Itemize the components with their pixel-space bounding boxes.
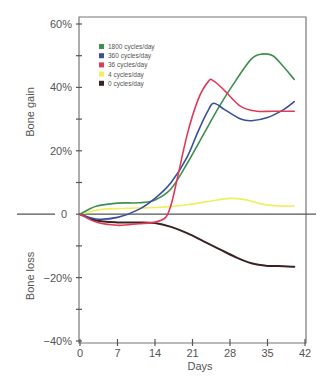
y-tick-label: 0	[61, 208, 67, 220]
legend-label: 4 cycles/day	[108, 71, 145, 79]
y-tick-label: −40%	[44, 335, 73, 347]
y-axis: 60%40%20%0−20%−40%	[44, 18, 82, 347]
x-tick-label: 14	[149, 347, 161, 359]
y-tick-label: −20%	[44, 272, 73, 284]
legend: 1800 cycles/day360 cycles/day36 cycles/d…	[99, 43, 155, 88]
series-line-4-cycles-day	[80, 198, 294, 214]
legend-label: 360 cycles/day	[108, 52, 152, 60]
x-tick-label: 0	[77, 347, 83, 359]
x-tick-label: 28	[224, 347, 236, 359]
x-axis: 071421283542	[77, 339, 311, 359]
x-axis-label: Days	[187, 360, 213, 372]
legend-swatch	[99, 62, 104, 67]
bone-remodeling-chart: 60%40%20%0−20%−40% 071421283542 1800 cyc…	[0, 0, 325, 387]
legend-swatch	[99, 81, 104, 86]
x-tick-label: 42	[299, 347, 311, 359]
y-axis-label-loss: Bone loss	[24, 251, 36, 300]
legend-label: 0 cycles/day	[108, 80, 145, 88]
y-tick-label: 60%	[50, 18, 72, 30]
y-tick-label: 20%	[50, 145, 72, 157]
y-axis-label-gain: Bone gain	[24, 87, 36, 137]
y-tick-label: 40%	[50, 81, 72, 93]
legend-swatch	[99, 72, 104, 77]
legend-label: 36 cycles/day	[108, 61, 148, 69]
legend-label: 1800 cycles/day	[108, 43, 155, 51]
x-tick-label: 21	[186, 347, 198, 359]
legend-swatch	[99, 44, 104, 49]
series-line-0-cycles-day	[80, 214, 294, 267]
series-line-360-cycles-day	[80, 102, 294, 219]
x-tick-label: 7	[114, 347, 120, 359]
x-tick-label: 35	[261, 347, 273, 359]
legend-swatch	[99, 53, 104, 58]
